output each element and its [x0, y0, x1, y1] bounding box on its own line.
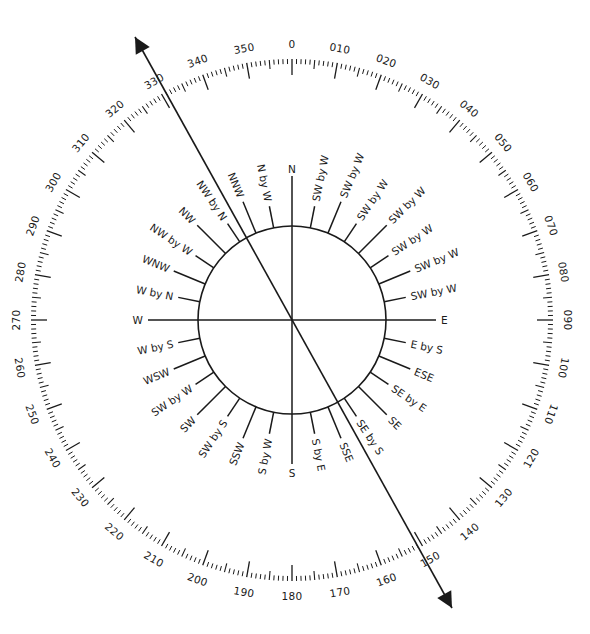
degree-tick: [496, 163, 500, 166]
degree-tick: [198, 559, 200, 564]
degree-tick: [40, 385, 49, 387]
degree-tick: [40, 252, 49, 254]
degree-label: 210: [142, 549, 166, 570]
degree-tick: [453, 117, 456, 121]
degree-tick: [535, 385, 544, 387]
degree-tick: [256, 574, 257, 579]
degree-tick: [435, 532, 438, 536]
degree-tick: [546, 351, 551, 352]
degree-label: 290: [23, 214, 41, 238]
compass-point-labels: NSW by WSW by WSW by WSW by WSW by WSW b…: [133, 151, 462, 479]
degree-tick: [178, 85, 180, 89]
degree-tick: [78, 465, 85, 470]
degree-tick: [460, 513, 463, 517]
degree-tick: [482, 491, 486, 494]
degree-tick: [535, 399, 540, 401]
degree-tick: [335, 63, 338, 79]
degree-tick: [36, 369, 41, 370]
degree-tick: [545, 360, 550, 361]
compass-point-tick: [358, 386, 386, 414]
degree-tick: [38, 261, 43, 262]
degree-tick: [84, 474, 88, 477]
degree-tick: [154, 537, 157, 541]
degree-tick: [518, 197, 522, 199]
degree-tick: [371, 563, 373, 568]
degree-tick: [540, 257, 545, 258]
degree-tick: [114, 129, 117, 133]
compass-point-tick: [196, 372, 214, 384]
degree-tick: [507, 178, 511, 181]
degree-tick: [66, 443, 80, 451]
degree-tick: [529, 222, 534, 224]
degree-tick: [396, 82, 398, 87]
degree-tick: [540, 382, 545, 383]
degree-tick: [59, 202, 63, 204]
compass-point-tick: [358, 225, 386, 253]
degree-tick: [37, 373, 42, 374]
degree-label: 180: [282, 590, 303, 602]
degree-label: 100: [556, 357, 571, 380]
degree-tick: [76, 463, 80, 466]
compass-point-label: S by E: [310, 438, 328, 473]
degree-tick: [437, 526, 442, 533]
degree-tick: [233, 569, 234, 574]
degree-tick: [162, 532, 170, 546]
degree-tick: [538, 248, 543, 249]
degree-tick: [211, 563, 213, 568]
degree-tick: [516, 444, 520, 446]
degree-label: 280: [12, 261, 27, 284]
degree-tick: [54, 424, 59, 426]
compass-point-label: E: [441, 314, 448, 326]
degree-tick: [384, 76, 386, 81]
compass-point-tick: [197, 225, 225, 253]
degree-tick: [518, 440, 522, 442]
degree-tick: [216, 70, 217, 75]
degree-tick: [124, 120, 134, 132]
degree-tick: [45, 235, 50, 237]
degree-tick: [89, 481, 93, 484]
degree-tick: [71, 182, 75, 185]
compass-point-label: SW by W: [389, 221, 435, 257]
degree-tick: [335, 561, 338, 577]
degree-label: 140: [458, 520, 482, 543]
degree-tick: [174, 548, 176, 552]
degree-tick: [198, 76, 200, 81]
degree-tick: [376, 75, 381, 90]
degree-tick: [81, 470, 85, 473]
degree-label: 270: [10, 310, 22, 331]
degree-tick: [431, 101, 434, 105]
degree-tick: [357, 68, 359, 77]
degree-tick: [131, 114, 134, 118]
degree-tick: [328, 574, 329, 579]
compass-point-label: NW by N: [194, 178, 229, 223]
degree-tick: [238, 570, 239, 575]
degree-tick: [479, 142, 483, 145]
degree-tick: [194, 557, 196, 562]
degree-tick: [73, 178, 77, 181]
degree-tick: [220, 566, 221, 571]
degree-tick: [354, 67, 355, 72]
degree-label: 020: [375, 51, 399, 69]
degree-tick: [42, 244, 47, 245]
degree-tick: [392, 80, 394, 85]
degree-tick: [146, 104, 149, 108]
degree-tick: [95, 149, 99, 152]
degree-tick: [57, 432, 61, 434]
compass-point-tick: [228, 224, 240, 242]
degree-tick: [128, 519, 131, 523]
degree-tick: [323, 574, 324, 579]
degree-tick: [34, 284, 39, 285]
degree-tick: [142, 106, 147, 113]
degree-tick: [350, 569, 351, 574]
degree-tick: [531, 226, 536, 228]
degree-tick: [135, 524, 138, 528]
compass-point-tick: [174, 271, 205, 284]
degree-label: 340: [186, 51, 210, 69]
degree-tick: [146, 532, 149, 536]
degree-tick: [95, 488, 99, 491]
degree-tick: [54, 214, 59, 216]
degree-tick: [158, 96, 161, 100]
degree-tick: [233, 66, 234, 71]
bearing-line: [135, 37, 452, 608]
compass-point-tick: [384, 297, 406, 301]
